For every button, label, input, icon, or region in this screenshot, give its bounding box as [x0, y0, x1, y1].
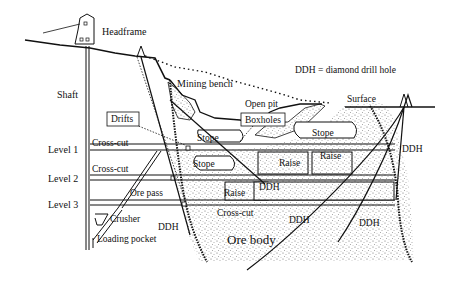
level-2-label: Level 2 [48, 173, 78, 184]
shaft [86, 46, 89, 250]
raise-3-label: Raise [224, 188, 245, 198]
boxholes-callout: Boxholes [241, 113, 285, 126]
cross-cut-2-label: Cross-cut [92, 164, 129, 174]
headframe-label: Headframe [102, 26, 147, 37]
level-3-label: Level 3 [48, 199, 78, 210]
open-pit-label: Open pit [245, 99, 278, 109]
legend-text: DDH = diamond drill hole [295, 65, 396, 75]
stope-2-label: Stope [193, 159, 215, 169]
junction-1 [186, 146, 190, 150]
drifts-callout: Drifts [107, 112, 139, 126]
ddh-5-label: DDH [402, 144, 423, 154]
drill-rig-right [400, 94, 408, 107]
raise-2-label: Raise [320, 151, 341, 161]
ground-surface [25, 40, 170, 80]
ddh-4-label: DDH [359, 218, 380, 228]
headframe-structure [43, 14, 94, 44]
level-1-label: Level 1 [48, 144, 78, 155]
ddh-1-label: DDH [158, 222, 179, 232]
stope-3-label: Stope [312, 128, 334, 138]
mining-bench-label: Mining bench [177, 78, 233, 89]
ore-body-label: Ore body [227, 232, 276, 247]
loading-pocket-label: Loading pocket [97, 234, 157, 244]
cross-cut-1-label: Cross-cut [92, 138, 129, 148]
drill-rig-left [137, 46, 145, 57]
ddh-2-label: DDH [259, 182, 280, 192]
cross-cut-3-label: Cross-cut [217, 208, 254, 218]
raise-1-label: Raise [279, 158, 300, 168]
shaft-label: Shaft [57, 89, 78, 100]
ddh-3-label: DDH [289, 215, 310, 225]
surface-label: Surface [347, 94, 376, 104]
drifts-label: Drifts [111, 114, 133, 124]
stope-1-label: Stope [197, 133, 219, 143]
junction-3 [182, 202, 186, 206]
crusher-label: Crusher [110, 214, 141, 224]
ore-pass-label: Ore pass [130, 188, 163, 198]
mine-cross-section-diagram: Headframe Shaft Mining bench DDH = diamo… [0, 0, 458, 285]
boxholes-label: Boxholes [245, 115, 281, 125]
